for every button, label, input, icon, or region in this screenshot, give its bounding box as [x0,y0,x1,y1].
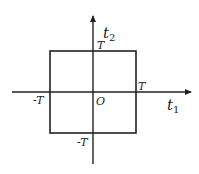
right-T-label: T [138,80,147,93]
coordinate-diagram: t2 T T -T O t1 -T [0,0,199,174]
bottom-negT-label: -T [77,136,89,149]
left-negT-label: -T [33,94,45,107]
origin-label: O [96,95,105,108]
t2-axis-label: t2 [103,24,115,43]
t1-axis-label: t1 [167,96,179,115]
